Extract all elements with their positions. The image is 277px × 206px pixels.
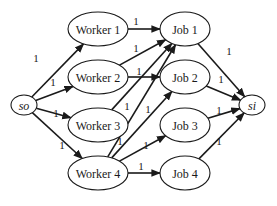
capacity-label: 1: [133, 15, 139, 27]
edge-j2-to-si: [206, 86, 240, 100]
node-label: si: [248, 99, 256, 113]
edge-so-to-w2: [36, 86, 73, 100]
capacity-label: 1: [53, 107, 59, 119]
node-w3: Worker 3: [68, 108, 128, 142]
capacity-label: 1: [59, 139, 65, 151]
node-so: so: [11, 95, 37, 115]
node-label: Job 4: [172, 167, 198, 181]
node-label: Job 2: [172, 71, 198, 85]
node-label: Job 3: [172, 119, 198, 133]
node-j4: Job 4: [160, 156, 210, 190]
node-w1: Worker 1: [68, 12, 128, 46]
node-w2: Worker 2: [68, 60, 128, 94]
edge-j3-to-si: [208, 109, 240, 119]
node-si: si: [239, 95, 265, 115]
node-label: Worker 4: [76, 167, 121, 181]
node-label: Worker 1: [76, 23, 121, 37]
node-j3: Job 3: [160, 108, 210, 142]
capacity-label: 1: [33, 52, 39, 64]
capacity-label: 1: [145, 103, 151, 115]
capacity-label: 1: [124, 100, 130, 112]
capacity-label: 1: [216, 135, 222, 147]
capacity-label: 1: [136, 65, 142, 77]
node-w4: Worker 4: [68, 156, 128, 190]
node-label: Worker 3: [76, 119, 121, 133]
capacity-label: 1: [50, 76, 56, 88]
capacity-label: 1: [138, 160, 144, 172]
node-label: Job 1: [172, 23, 198, 37]
flow-network-diagram: 1111111111111111 soWorker 1Worker 2Worke…: [0, 0, 277, 206]
edge-w2-to-j1: [119, 40, 165, 65]
node-j1: Job 1: [160, 12, 210, 46]
node-label: Worker 2: [76, 71, 121, 85]
capacity-label: 1: [216, 104, 222, 116]
node-j2: Job 2: [160, 60, 210, 94]
capacity-label: 1: [133, 42, 139, 54]
node-label: so: [19, 99, 30, 113]
capacity-label: 1: [143, 139, 149, 151]
capacity-label: 1: [226, 45, 232, 57]
capacity-label: 1: [218, 73, 224, 85]
